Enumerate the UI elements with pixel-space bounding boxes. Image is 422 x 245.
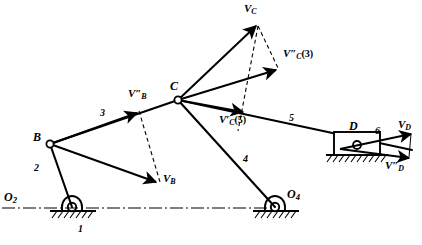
dashed-vbdp-to-vb [139,111,160,182]
dashed-vc-to-vcp3 [258,26,279,70]
kinematic-velocity-diagram: O2 B C O4 D 1 2 3 4 5 6 V″B VB VC V″C(3)… [0,0,422,245]
vector-v-b [50,144,156,182]
tick-vd-closure [409,134,411,157]
link-number-6: 6 [375,126,380,136]
link-number-2: 2 [34,163,39,173]
link-O2-B [50,144,72,207]
label-v-d-double-prime: V″D [385,160,404,173]
label-B: B [33,131,41,143]
label-v-c-prime-3: V″C(3) [283,48,313,61]
pin-joint-B [46,140,53,147]
label-v-c: VC [244,3,257,16]
ground-support-D [326,155,388,162]
label-O2: O2 [4,191,17,205]
label-v-b: VB [163,173,176,186]
link-number-4: 4 [243,154,248,164]
link-number-3: 3 [100,108,105,118]
vector-v-b-double-prime [50,113,137,144]
link-number-5: 5 [289,113,294,123]
label-C: C [170,80,178,92]
label-v-b-double-prime: V″B [128,88,146,101]
pin-joint-C [174,96,181,103]
label-v-c-prime-5: V′C(5) [219,114,246,127]
diagram-canvas [0,0,422,245]
link-number-1: 1 [78,224,83,234]
label-O4: O4 [287,188,300,202]
label-D: D [349,120,358,132]
label-v-d: VD [398,119,411,132]
